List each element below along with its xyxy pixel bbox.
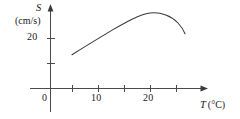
y-axis-symbol-label: S	[36, 3, 41, 14]
x-tick-label-20: 20	[143, 93, 153, 103]
x-axis-unit-label: (°C)	[208, 99, 225, 110]
x-axis-label-group: T(°C)	[200, 95, 225, 111]
origin-tick-label: 0	[42, 93, 47, 103]
figure-container: S (cm/s) 20 0 10 20 T(°C)	[0, 0, 240, 119]
y-axis-unit-label: (cm/s)	[15, 16, 41, 26]
x-axis-arrowhead	[201, 86, 209, 92]
y-tick-label-20: 20	[27, 32, 37, 42]
x-axis-symbol-label: T	[200, 99, 206, 110]
x-tick-label-10: 10	[91, 93, 101, 103]
data-curve-speed-vs-temperature	[72, 13, 185, 55]
y-axis-arrowhead	[48, 4, 54, 12]
